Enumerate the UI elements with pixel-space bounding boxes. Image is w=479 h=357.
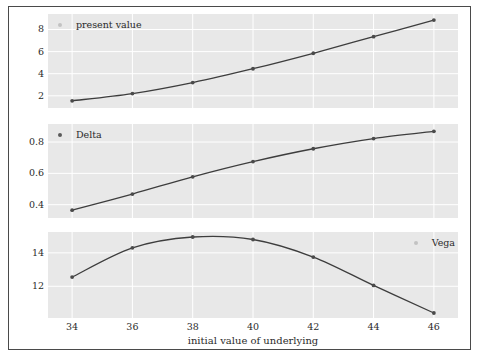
xtick-label: 44 bbox=[368, 322, 380, 332]
legend-marker-icon bbox=[414, 241, 418, 245]
legend-marker-icon bbox=[58, 23, 62, 27]
xtick-label: 42 bbox=[307, 322, 319, 332]
plot-vega bbox=[48, 232, 458, 318]
xtick-label: 40 bbox=[247, 322, 259, 332]
xaxis-ticks: 34363840424446 bbox=[48, 322, 458, 335]
figure-root: 2 4 6 8 present value 0.4 0.6 0.8 Delta … bbox=[0, 0, 479, 357]
ytick-label: 0.4 bbox=[29, 200, 44, 210]
legend-label: Delta bbox=[76, 130, 102, 140]
legend-present-value: present value bbox=[58, 20, 142, 30]
xtick-label: 38 bbox=[187, 322, 199, 332]
ytick-label: 0.8 bbox=[29, 137, 44, 147]
legend-label: present value bbox=[76, 20, 142, 30]
panel-vega bbox=[48, 232, 458, 318]
ytick-label: 0.6 bbox=[29, 169, 44, 179]
ytick-label: 6 bbox=[38, 47, 44, 57]
legend-label: Vega bbox=[432, 238, 455, 248]
plot-delta bbox=[48, 124, 458, 218]
xtick-label: 36 bbox=[126, 322, 138, 332]
ytick-label: 2 bbox=[38, 91, 44, 101]
legend-marker-icon bbox=[58, 133, 62, 137]
ytick-label: 8 bbox=[38, 25, 44, 35]
xaxis-label: initial value of underlying bbox=[48, 336, 458, 346]
panel-delta bbox=[48, 124, 458, 218]
yaxis-present-value: 2 4 6 8 bbox=[0, 14, 44, 108]
yaxis-delta: 0.4 0.6 0.8 bbox=[0, 124, 44, 218]
ytick-label: 14 bbox=[32, 248, 44, 258]
xtick-label: 46 bbox=[428, 322, 440, 332]
legend-vega: Vega bbox=[414, 238, 455, 248]
ytick-label: 12 bbox=[32, 282, 44, 292]
yaxis-vega: 12 14 bbox=[0, 232, 44, 318]
legend-delta: Delta bbox=[58, 130, 102, 140]
xtick-label: 34 bbox=[66, 322, 78, 332]
ytick-label: 4 bbox=[38, 69, 44, 79]
